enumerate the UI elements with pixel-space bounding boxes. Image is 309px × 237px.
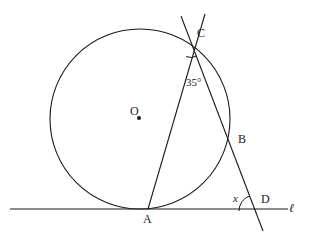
- label-angle-x: x: [233, 193, 238, 204]
- label-point-b: B: [238, 133, 246, 145]
- geometry-figure: O A B C D ℓ 35° x: [0, 0, 309, 237]
- label-point-d: D: [261, 193, 270, 205]
- label-center-o: O: [130, 105, 139, 117]
- label-angle-35-degrees: 35°: [186, 77, 201, 88]
- chord-line-ac: [148, 14, 205, 209]
- label-point-c: C: [197, 27, 205, 39]
- secant-line-cbd: [181, 16, 263, 231]
- label-line-l: ℓ: [289, 202, 294, 214]
- angle-arc-at-c: [186, 56, 197, 57]
- label-point-a: A: [143, 213, 152, 225]
